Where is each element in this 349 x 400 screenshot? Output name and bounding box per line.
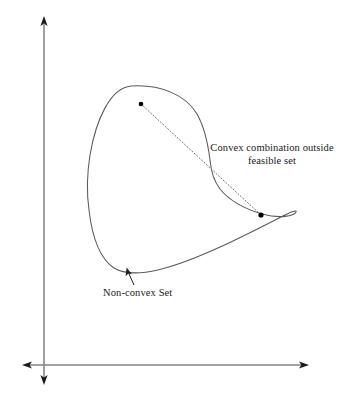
non-convex-set-path	[87, 86, 296, 273]
figure-canvas: Convex combination outside feasible set …	[0, 0, 349, 400]
non-convex-pointer-group	[126, 268, 134, 286]
non-convex-set-label: Non-convex Set	[103, 286, 172, 299]
convex-combination-label: Convex combination outside feasible set	[204, 141, 340, 167]
convex-combination-label-line2: feasible set	[204, 154, 340, 167]
point-b-dot	[258, 212, 263, 217]
non-convex-set-group	[87, 86, 296, 273]
point-a-dot	[139, 102, 144, 107]
diagram-svg	[0, 0, 349, 400]
axes-group	[22, 16, 309, 385]
non-convex-pointer-arrowhead	[126, 268, 132, 277]
convex-combination-label-line1: Convex combination outside	[204, 141, 340, 154]
